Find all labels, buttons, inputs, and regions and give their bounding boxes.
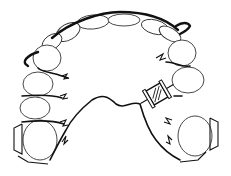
tooth-premolar2-right bbox=[172, 67, 204, 93]
wire-zigzag-right-1 bbox=[156, 54, 166, 60]
tooth-premolar3-left bbox=[20, 97, 50, 119]
wire-zigzag-right-3 bbox=[166, 136, 172, 144]
tooth-premolar2-left bbox=[23, 72, 53, 96]
tooth-molar-left bbox=[23, 120, 57, 160]
wire-zigzag-left-4 bbox=[62, 136, 68, 144]
wire-zigzag-right-2 bbox=[164, 118, 172, 124]
dental-appliance-illustration bbox=[0, 0, 231, 176]
tooth-premolar1-left bbox=[33, 45, 61, 71]
tooth-molar-right bbox=[178, 116, 212, 156]
tooth-incisor-right bbox=[108, 14, 140, 26]
teeth bbox=[20, 14, 212, 160]
